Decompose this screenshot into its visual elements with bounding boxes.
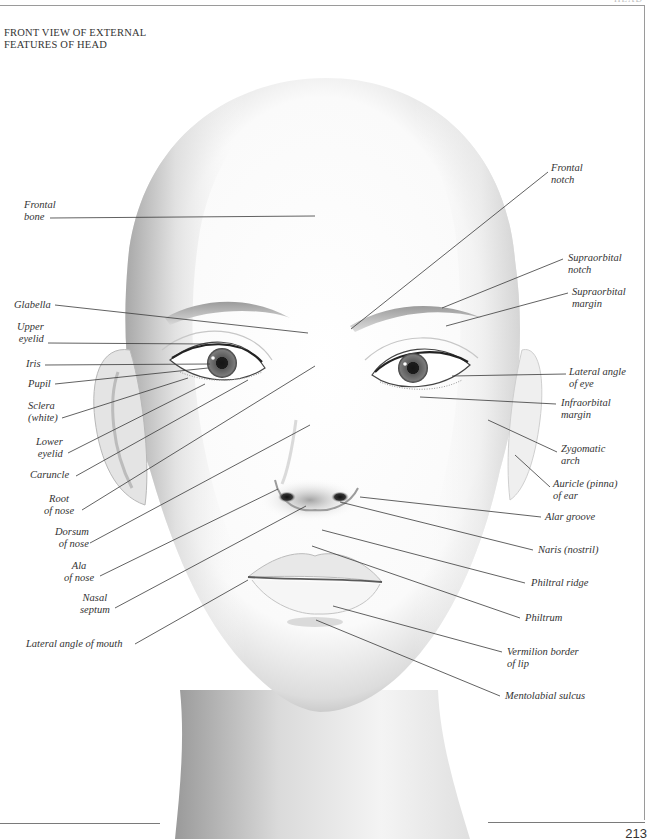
label-mentolabial-sulcus: Mentolabial sulcus: [505, 690, 585, 702]
label-caruncle: Caruncle: [30, 469, 69, 481]
label-nasal-septum: Nasal septum: [80, 592, 110, 615]
label-zygomatic-arch: Zygomatic arch: [561, 443, 605, 466]
label-frontal-notch: Frontal notch: [551, 162, 583, 185]
label-line: Root: [44, 493, 74, 505]
label-line: eyelid: [36, 448, 63, 460]
label-line: Supraorbital: [572, 286, 626, 298]
label-line: Sclera: [28, 400, 58, 412]
label-line: margin: [561, 409, 611, 421]
label-line: Iris: [26, 358, 41, 370]
label-supraorbital-notch: Supraorbital notch: [568, 252, 622, 275]
label-line: eyelid: [17, 333, 44, 345]
label-pupil: Pupil: [28, 378, 51, 390]
label-line: Mentolabial sulcus: [505, 690, 585, 702]
label-line: bone: [24, 211, 56, 223]
label-ala-of-nose: Ala of nose: [64, 560, 94, 583]
label-line: of nose: [64, 572, 94, 584]
label-sclera: Sclera (white): [28, 400, 58, 423]
label-line: Glabella: [14, 299, 51, 311]
label-line: of nose: [55, 538, 89, 550]
label-alar-groove: Alar groove: [545, 511, 595, 523]
label-auricle-of-ear: Auricle (pinna) of ear: [553, 478, 617, 501]
label-line: Nasal: [80, 592, 110, 604]
label-line: Frontal: [24, 199, 56, 211]
label-line: of lip: [507, 658, 579, 670]
label-line: Frontal: [551, 162, 583, 174]
label-line: Supraorbital: [568, 252, 622, 264]
label-line: Alar groove: [545, 511, 595, 523]
label-lateral-angle-of-eye: Lateral angle of eye: [569, 366, 626, 389]
label-line: Pupil: [28, 378, 51, 390]
label-line: Zygomatic: [561, 443, 605, 455]
label-line: Caruncle: [30, 469, 69, 481]
label-line: (white): [28, 412, 58, 424]
label-line: of ear: [553, 490, 617, 502]
label-supraorbital-margin: Supraorbital margin: [572, 286, 626, 309]
label-line: Vermilion border: [507, 646, 579, 658]
page: HEAD FRONT VIEW OF EXTERNAL FEATURES OF …: [0, 0, 655, 839]
label-line: Infraorbital: [561, 397, 611, 409]
label-dorsum-of-nose: Dorsum of nose: [55, 526, 89, 549]
label-line: Philtral ridge: [531, 577, 588, 589]
label-line: septum: [80, 604, 110, 616]
label-philtrum: Philtrum: [525, 612, 562, 624]
label-line: notch: [568, 264, 622, 276]
label-line: Philtrum: [525, 612, 562, 624]
label-iris: Iris: [26, 358, 41, 370]
head-illustration: [0, 0, 655, 839]
label-frontal-bone: Frontal bone: [24, 199, 56, 222]
label-line: margin: [572, 298, 626, 310]
label-line: notch: [551, 174, 583, 186]
label-upper-eyelid: Upper eyelid: [17, 321, 44, 344]
label-line: arch: [561, 455, 605, 467]
label-line: Ala: [64, 560, 94, 572]
label-philtral-ridge: Philtral ridge: [531, 577, 588, 589]
label-root-of-nose: Root of nose: [44, 493, 74, 516]
label-line: Lower: [36, 436, 63, 448]
label-line: Naris (nostril): [538, 544, 598, 556]
label-line: Auricle (pinna): [553, 478, 617, 490]
label-glabella: Glabella: [14, 299, 51, 311]
label-infraorbital-margin: Infraorbital margin: [561, 397, 611, 420]
label-line: Lateral angle of mouth: [26, 638, 123, 650]
label-naris: Naris (nostril): [538, 544, 598, 556]
label-line: Lateral angle: [569, 366, 626, 378]
label-line: of nose: [44, 505, 74, 517]
neck: [175, 690, 470, 839]
label-lower-eyelid: Lower eyelid: [36, 436, 63, 459]
label-line: Dorsum: [55, 526, 89, 538]
label-lateral-angle-of-mouth: Lateral angle of mouth: [26, 638, 123, 650]
label-vermilion-border: Vermilion border of lip: [507, 646, 579, 669]
page-number: 213: [625, 826, 647, 839]
label-line: of eye: [569, 378, 626, 390]
label-line: Upper: [17, 321, 44, 333]
